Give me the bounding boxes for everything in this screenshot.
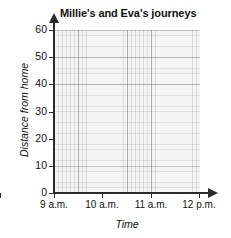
x-tick-label-10am: 10 a.m. (76, 199, 128, 210)
y-tick-label-60: 60 (25, 23, 47, 35)
x-tick-10am (102, 193, 103, 198)
y-tick-40 (49, 84, 54, 85)
y-tick-label-0: 0 (25, 186, 47, 198)
x-axis-line (53, 192, 210, 194)
x-axis-title: Time (54, 218, 200, 230)
y-axis-title: Distance from home (18, 35, 30, 185)
arrow-up-icon (49, 13, 59, 23)
chart-container: Millie's and Eva's journeys 60 50 40 30 … (0, 0, 231, 238)
arrow-right-icon (208, 188, 218, 198)
y-axis-line (53, 22, 55, 194)
y-tick-20 (49, 139, 54, 140)
x-tick-9am (54, 193, 55, 198)
x-tick-label-11am: 11 a.m. (125, 199, 177, 210)
chart-title: Millie's and Eva's journeys (60, 7, 228, 19)
x-tick-label-9am: 9 a.m. (28, 199, 80, 210)
x-tick-spacer (0, 193, 1, 198)
x-tick-11am (151, 193, 152, 198)
x-tick-12pm (199, 193, 200, 198)
x-tick-label-12pm: 12 p.m. (173, 199, 225, 210)
y-tick-60 (49, 30, 54, 31)
plot-area (54, 30, 200, 193)
y-tick-50 (49, 57, 54, 58)
y-tick-30 (49, 112, 54, 113)
grid-major (54, 30, 200, 193)
y-tick-10 (49, 166, 54, 167)
